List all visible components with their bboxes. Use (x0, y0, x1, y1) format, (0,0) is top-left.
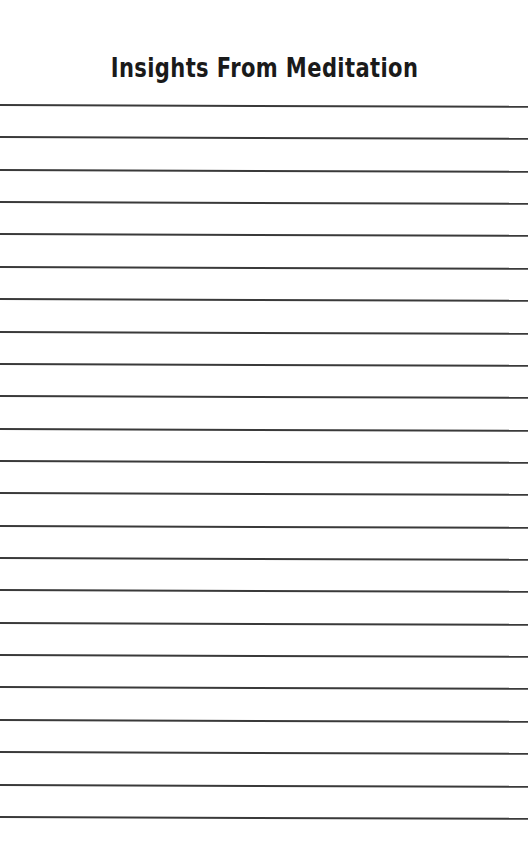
ruled-line (0, 589, 528, 593)
ruled-line (0, 331, 528, 335)
ruled-line (0, 654, 528, 658)
page-title: Insights From Meditation (58, 52, 471, 83)
ruled-line (0, 428, 528, 432)
ruled-line (0, 719, 528, 723)
ruled-line (0, 816, 528, 820)
ruled-line (0, 201, 528, 205)
ruled-line (0, 233, 528, 237)
ruled-line (0, 266, 528, 270)
ruled-line (0, 104, 528, 108)
ruled-line (0, 784, 528, 788)
ruled-line (0, 460, 528, 464)
ruled-line (0, 557, 528, 561)
ruled-line (0, 298, 528, 302)
ruled-line (0, 363, 528, 367)
ruled-line (0, 622, 528, 626)
ruled-line (0, 686, 528, 690)
ruled-line (0, 395, 528, 399)
ruled-line (0, 169, 528, 173)
ruled-line (0, 136, 528, 140)
ruled-line (0, 492, 528, 496)
ruled-line (0, 525, 528, 529)
ruled-line (0, 751, 528, 755)
